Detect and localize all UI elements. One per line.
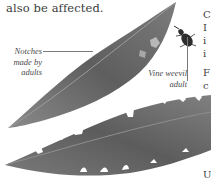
right-col-fragment: C <box>203 8 211 21</box>
notches-leader-line <box>43 51 93 52</box>
right-col-fragment: i <box>203 34 211 47</box>
right-col-fragment: F <box>203 66 211 79</box>
vine-weevil-icon <box>174 26 196 49</box>
right-col-fragment: I <box>203 21 211 34</box>
right-col-fragment: U <box>203 168 211 181</box>
leaf-illustration <box>0 0 211 183</box>
right-col-fragment: i <box>203 47 211 60</box>
weevil-leader-line <box>187 37 188 81</box>
weevil-caption: Vine weevil adult <box>137 68 187 89</box>
right-column-text: C I i i F c U <box>203 8 211 92</box>
notches-caption: Notches made by adults <box>6 46 42 78</box>
right-col-fragment: c <box>203 79 211 92</box>
